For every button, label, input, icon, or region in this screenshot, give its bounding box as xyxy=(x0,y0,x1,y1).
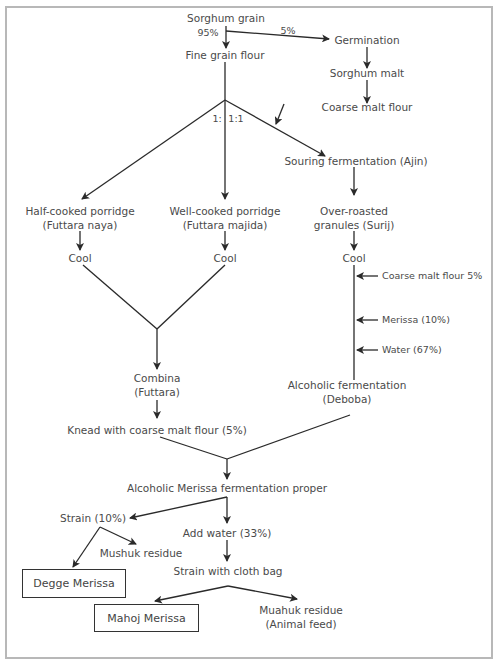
combina-subtitle: (Futtara) xyxy=(134,385,181,399)
node-cool-left: Cool xyxy=(68,251,91,265)
node-knead: Knead with coarse malt flour (5%) xyxy=(67,423,247,437)
over-roasted-title: Over-roasted xyxy=(314,204,395,218)
alcoholic-fermentation-subtitle: (Deboba) xyxy=(288,392,407,406)
label-5-percent: 5% xyxy=(280,24,295,38)
label-95-percent: 95% xyxy=(197,26,218,40)
node-combina: Combina (Futtara) xyxy=(134,371,181,399)
output-degge-merissa: Degge Merissa xyxy=(22,569,126,598)
node-well-cooked-porridge: Well-cooked porridge (Futtara majida) xyxy=(170,204,281,232)
node-add-water-33: Add water (33%) xyxy=(183,526,271,540)
input-merissa: Merissa (10%) xyxy=(382,313,450,327)
node-muahuk-residue: Muahuk residue (Animal feed) xyxy=(259,603,343,631)
node-cool-middle: Cool xyxy=(213,251,236,265)
node-mushuk-residue: Mushuk residue xyxy=(100,546,183,560)
node-sorghum-malt: Sorghum malt xyxy=(330,66,404,80)
output-mahoj-merissa: Mahoj Merissa xyxy=(94,604,199,632)
well-cooked-title: Well-cooked porridge xyxy=(170,204,281,218)
node-alcoholic-fermentation: Alcoholic fermentation (Deboba) xyxy=(288,378,407,406)
input-water: Water (67%) xyxy=(382,343,442,357)
half-cooked-subtitle: (Futtara naya) xyxy=(25,218,134,232)
node-merissa-fermentation-proper: Alcoholic Merissa fermentation proper xyxy=(127,481,327,495)
node-souring-fermentation: Souring fermentation (Ajin) xyxy=(284,154,427,168)
input-coarse-malt-flour: Coarse malt flour 5% xyxy=(382,269,482,283)
label-ratio-left: 1: xyxy=(212,112,221,126)
node-germination: Germination xyxy=(334,33,399,47)
node-coarse-malt-flour: Coarse malt flour xyxy=(322,100,413,114)
node-half-cooked-porridge: Half-cooked porridge (Futtara naya) xyxy=(25,204,134,232)
muahuk-residue-subtitle: (Animal feed) xyxy=(259,617,343,631)
label-ratio-right: 1:1 xyxy=(228,112,243,126)
over-roasted-subtitle: granules (Surij) xyxy=(314,218,395,232)
node-sorghum-grain: Sorghum grain xyxy=(187,11,265,25)
node-strain-10: Strain (10%) xyxy=(60,511,126,525)
muahuk-residue-title: Muahuk residue xyxy=(259,603,343,617)
node-fine-grain-flour: Fine grain flour xyxy=(186,48,265,62)
node-over-roasted-granules: Over-roasted granules (Surij) xyxy=(314,204,395,232)
half-cooked-title: Half-cooked porridge xyxy=(25,204,134,218)
combina-title: Combina xyxy=(134,371,181,385)
node-cool-right: Cool xyxy=(342,251,365,265)
alcoholic-fermentation-title: Alcoholic fermentation xyxy=(288,378,407,392)
node-strain-cloth-bag: Strain with cloth bag xyxy=(173,564,282,578)
well-cooked-subtitle: (Futtara majida) xyxy=(170,218,281,232)
